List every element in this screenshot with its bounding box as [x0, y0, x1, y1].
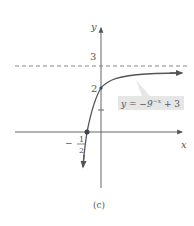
label-pointer [136, 80, 150, 96]
tick-label-neg-sign: − [65, 138, 73, 148]
graph: y x 3 2 − 1 2 y = −9−x + 3 (c) [0, 0, 194, 226]
x-intercept-point [85, 130, 90, 135]
function-curve [83, 73, 180, 165]
x-axis-label: x [181, 139, 187, 150]
equation-rhs: + 3 [161, 99, 180, 109]
tick-label-3: 3 [90, 51, 96, 62]
equation-lhs: y = −9 [120, 99, 153, 109]
tick-label-half-den: 2 [79, 146, 84, 155]
tick-label-2: 2 [91, 83, 97, 94]
y-axis-label: y [90, 21, 97, 32]
figure-caption: (c) [93, 200, 105, 210]
tick-label-half-num: 1 [79, 135, 84, 144]
y-intercept-point [99, 86, 102, 89]
equation-label: y = −9−x + 3 [120, 97, 180, 109]
curve-arrow-down [83, 155, 84, 167]
